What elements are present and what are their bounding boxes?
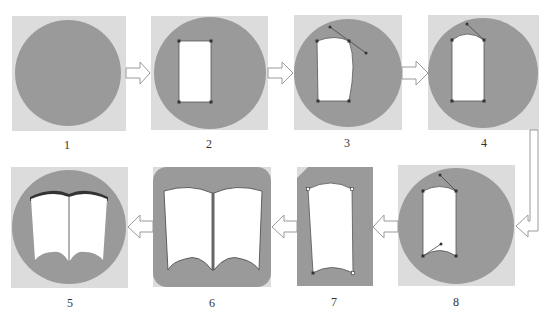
- arrow-left-icon: [373, 215, 398, 238]
- step-3-panel: [294, 15, 402, 130]
- step-8-panel: [398, 165, 515, 286]
- step-4-panel: [428, 15, 539, 130]
- step-7-panel: [297, 167, 373, 286]
- step-label-7: 7: [324, 295, 344, 310]
- arrow-connector-icon: [516, 130, 538, 237]
- step-label-3: 3: [337, 136, 357, 151]
- arrow-right-icon: [402, 61, 428, 85]
- arrow-right-icon: [126, 62, 150, 84]
- step-label-5: 5: [60, 296, 80, 311]
- step-1-panel: [12, 16, 126, 131]
- arrow-right-icon: [268, 62, 293, 84]
- step-6-panel: [153, 167, 271, 287]
- step-label-1: 1: [57, 138, 77, 153]
- arrow-left-icon: [128, 215, 153, 238]
- book-icon-construction-diagram: [0, 0, 552, 317]
- step-label-2: 2: [199, 137, 219, 152]
- step-label-6: 6: [202, 296, 222, 311]
- arrow-left-icon: [272, 215, 297, 238]
- step-2-panel: [151, 16, 268, 130]
- step-5-panel: [11, 167, 128, 288]
- step-label-4: 4: [474, 136, 494, 151]
- step-label-8: 8: [446, 295, 466, 310]
